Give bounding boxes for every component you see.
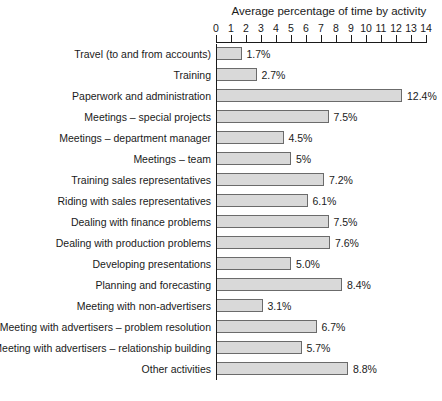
x-axis-tick-label: 5: [288, 22, 294, 34]
category-label: Meetings – department manager: [59, 131, 211, 145]
bar: [216, 173, 324, 186]
category-label: Meeting with advertisers – problem resol…: [0, 320, 211, 334]
x-axis-tick-mark: [336, 35, 337, 42]
x-axis-tick-mark: [231, 35, 232, 42]
bar-row: Developing presentations5.0%: [0, 254, 442, 275]
x-axis-tick-mark: [306, 35, 307, 42]
x-axis-tick-label: 3: [258, 22, 264, 34]
bar: [216, 89, 402, 102]
plot-area: Travel (to and from accounts)1.7%Trainin…: [0, 44, 442, 380]
x-axis-tick-mark: [426, 35, 427, 42]
bar-value-label: 6.7%: [322, 320, 346, 334]
x-axis-tick-mark: [351, 35, 352, 42]
x-axis-tick-mark: [276, 35, 277, 42]
x-axis-tick-label: 10: [360, 22, 372, 34]
x-axis-tick-label: 7: [318, 22, 324, 34]
bar: [216, 320, 317, 333]
x-axis-tick-mark: [291, 35, 292, 42]
bar-value-label: 1.7%: [247, 47, 271, 61]
x-axis-tick-label: 9: [348, 22, 354, 34]
bar: [216, 299, 263, 312]
bar-value-label: 4.5%: [289, 131, 313, 145]
bar: [216, 131, 284, 144]
bar: [216, 47, 242, 60]
x-axis: 01234567891011121314: [0, 22, 442, 44]
bar-value-label: 8.4%: [347, 278, 371, 292]
bar-value-label: 7.5%: [334, 110, 358, 124]
x-axis-tick-mark: [321, 35, 322, 42]
bar: [216, 257, 291, 270]
bar: [216, 194, 308, 207]
x-axis-line: [216, 42, 427, 43]
bar-row: Planning and forecasting8.4%: [0, 275, 442, 296]
bar-value-label: 5.0%: [296, 257, 320, 271]
bar-value-label: 8.8%: [353, 362, 377, 376]
bar: [216, 362, 348, 375]
bar: [216, 152, 291, 165]
category-label: Planning and forecasting: [95, 278, 211, 292]
x-axis-tick-label: 12: [390, 22, 402, 34]
bar: [216, 341, 302, 354]
x-axis-tick-label: 13: [405, 22, 417, 34]
bar-value-label: 7.6%: [335, 236, 359, 250]
bar-value-label: 7.5%: [334, 215, 358, 229]
bar-row: Meeting with non-advertisers3.1%: [0, 296, 442, 317]
x-axis-tick-label: 2: [243, 22, 249, 34]
x-axis-tick-mark: [246, 35, 247, 42]
x-axis-tick-label: 1: [228, 22, 234, 34]
x-axis-tick-mark: [396, 35, 397, 42]
x-axis-tick-label: 4: [273, 22, 279, 34]
bar: [216, 68, 257, 81]
category-label: Meeting with non-advertisers: [77, 299, 211, 313]
x-axis-tick-label: 11: [376, 22, 387, 34]
bar-row: Dealing with production problems7.6%: [0, 233, 442, 254]
bar-row: Riding with sales representatives6.1%: [0, 191, 442, 212]
category-label: Training sales representatives: [71, 173, 211, 187]
bar: [216, 236, 330, 249]
bar-value-label: 12.4%: [407, 89, 437, 103]
bar-row: Meeting with advertisers – relationship …: [0, 338, 442, 359]
category-label: Travel (to and from accounts): [74, 47, 211, 61]
x-axis-tick-mark: [411, 35, 412, 42]
bar-value-label: 7.2%: [329, 173, 353, 187]
category-label: Meetings – special projects: [84, 110, 211, 124]
bar-row: Meetings – special projects7.5%: [0, 107, 442, 128]
bar: [216, 215, 329, 228]
bar-row: Travel (to and from accounts)1.7%: [0, 44, 442, 65]
category-label: Other activities: [142, 362, 211, 376]
bar-value-label: 5.7%: [307, 341, 331, 355]
bar-row: Meeting with advertisers – problem resol…: [0, 317, 442, 338]
category-label: Paperwork and administration: [72, 89, 211, 103]
x-axis-tick-label: 14: [420, 22, 432, 34]
category-label: Training: [173, 68, 211, 82]
category-label: Developing presentations: [93, 257, 212, 271]
bar: [216, 278, 342, 291]
category-label: Dealing with production problems: [56, 236, 211, 250]
x-axis-tick-mark: [216, 35, 217, 42]
bar-value-label: 5%: [296, 152, 311, 166]
bar-row: Training2.7%: [0, 65, 442, 86]
y-axis-baseline: [216, 44, 217, 380]
category-label: Dealing with finance problems: [71, 215, 211, 229]
x-axis-tick-label: 6: [303, 22, 309, 34]
bar-row: Training sales representatives7.2%: [0, 170, 442, 191]
x-axis-tick-mark: [381, 35, 382, 42]
bar-chart: Average percentage of time by activity 0…: [0, 0, 442, 401]
category-label: Riding with sales representatives: [58, 194, 212, 208]
category-label: Meetings – team: [133, 152, 211, 166]
x-axis-tick-label: 8: [333, 22, 339, 34]
chart-title: Average percentage of time by activity: [216, 4, 442, 18]
bar: [216, 110, 329, 123]
bar-value-label: 2.7%: [262, 68, 286, 82]
bar-value-label: 3.1%: [268, 299, 292, 313]
bar-row: Meetings – team5%: [0, 149, 442, 170]
bar-row: Meetings – department manager4.5%: [0, 128, 442, 149]
category-label: Meeting with advertisers – relationship …: [0, 341, 211, 355]
x-axis-tick-mark: [366, 35, 367, 42]
bar-row: Paperwork and administration12.4%: [0, 86, 442, 107]
bar-value-label: 6.1%: [313, 194, 337, 208]
bar-row: Dealing with finance problems7.5%: [0, 212, 442, 233]
x-axis-tick-label: 0: [213, 22, 219, 34]
x-axis-tick-mark: [261, 35, 262, 42]
bar-row: Other activities8.8%: [0, 359, 442, 380]
